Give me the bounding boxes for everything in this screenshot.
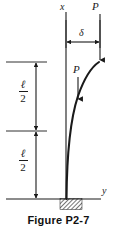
buckled-column-curve [67,62,100,199]
figure-container: x P δ P y ℓ 2 ℓ 2 Figure P2-7 [0,0,117,234]
length-label-lower-numerator: ℓ [14,148,32,159]
y-axis-label: y [102,186,106,196]
load-label-top: P [92,1,99,12]
length-label-lower-denominator: 2 [14,162,32,173]
length-label-lower: ℓ 2 [14,148,32,173]
length-label-upper-numerator: ℓ [14,79,32,90]
deflection-label-delta: δ [79,28,84,38]
length-label-upper-denominator: 2 [14,93,32,104]
column-buckling-diagram [0,0,117,234]
figure-caption: Figure P2-7 [0,214,117,226]
x-axis-label: x [60,2,64,12]
load-label-inner: P [73,64,80,75]
length-label-upper: ℓ 2 [14,79,32,104]
fixed-support-block [60,199,82,210]
